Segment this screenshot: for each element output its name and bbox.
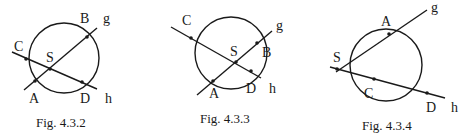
figures-canvas: B g C S A D h Fig. 4.3.2 C g S B A D h F… (0, 0, 474, 138)
label-g: g (103, 11, 110, 26)
label-d: D (426, 100, 436, 115)
label-h: h (105, 91, 112, 106)
label-h: h (451, 100, 458, 115)
label-s: S (46, 50, 54, 65)
point-b (85, 35, 89, 39)
point-a (33, 79, 37, 83)
label-a: A (381, 14, 392, 29)
point-s (335, 67, 339, 71)
label-a: A (209, 86, 220, 101)
label-s: S (333, 50, 341, 65)
point-s (48, 67, 52, 71)
point-a (387, 32, 391, 36)
figure-4-3-3: C g S B A D h Fig. 4.3.3 (171, 13, 283, 126)
point-c (24, 57, 28, 61)
caption: Fig. 4.3.2 (36, 115, 86, 130)
line-h (12, 52, 97, 89)
point-d (425, 91, 429, 95)
circle (29, 23, 99, 93)
label-b: B (262, 45, 271, 60)
point-a (211, 79, 215, 83)
point-d (80, 80, 84, 84)
label-c: C (364, 86, 373, 101)
label-c: C (14, 39, 23, 54)
figure-4-3-4: g A S C D h Fig. 4.3.4 (330, 0, 458, 133)
label-g: g (431, 0, 438, 15)
circle (350, 29, 422, 101)
point-c (372, 77, 376, 81)
caption: Fig. 4.3.3 (200, 111, 250, 126)
label-c: C (182, 13, 191, 28)
label-g: g (276, 18, 283, 33)
point-c (189, 36, 193, 40)
label-a: A (29, 91, 40, 106)
label-d: D (246, 81, 256, 96)
label-b: B (80, 11, 89, 26)
label-d: D (80, 91, 90, 106)
point-s (234, 60, 238, 64)
label-h: h (269, 81, 276, 96)
label-s: S (230, 44, 238, 59)
point-b (255, 41, 259, 45)
caption: Fig. 4.3.4 (362, 118, 412, 133)
point-d (249, 69, 253, 73)
figure-4-3-2: B g C S A D h Fig. 4.3.2 (12, 11, 112, 130)
